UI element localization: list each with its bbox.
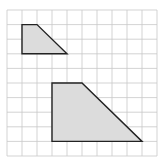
grid-diagram [0, 0, 159, 161]
